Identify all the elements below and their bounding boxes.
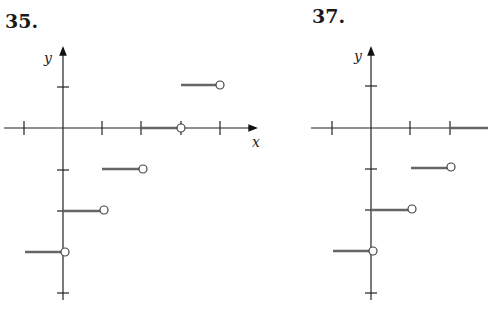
x-axis-label-35: x bbox=[252, 134, 260, 150]
graphs: y x y bbox=[0, 0, 488, 311]
y-axis-label-35: y bbox=[43, 50, 53, 66]
figure-37-plot: y bbox=[311, 48, 488, 300]
y-axis-label-37: y bbox=[353, 48, 363, 64]
figure-35-plot: y x bbox=[4, 48, 260, 300]
